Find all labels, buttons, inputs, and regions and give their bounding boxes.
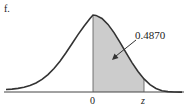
tick-z-label: z — [141, 96, 145, 106]
normal-curve-figure — [0, 0, 187, 107]
part-label: f. — [4, 4, 10, 14]
tick-zero-label: 0 — [90, 96, 95, 106]
area-value-label: 0.4870 — [135, 30, 165, 41]
